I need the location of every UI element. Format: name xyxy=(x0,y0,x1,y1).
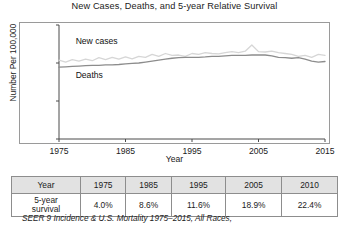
series-label-deaths: Deaths xyxy=(76,70,103,80)
table-col-header-2005: 2005 xyxy=(226,177,282,194)
survival-table: Year19751985199520052010 5-yearsurvival4… xyxy=(11,176,338,217)
table-col-header-1985: 1985 xyxy=(126,177,171,194)
table-header-row: Year19751985199520052010 xyxy=(12,177,338,194)
table-col-header-year: Year xyxy=(12,177,81,194)
table-cell-survival: 18.9% xyxy=(226,194,282,217)
table-cell-survival: 22.4% xyxy=(282,194,338,217)
source-footnote: SEER 9 Incidence & U.S. Mortality 1975–2… xyxy=(22,214,232,223)
table-col-header-2010: 2010 xyxy=(282,177,338,194)
x-axis-label: Year xyxy=(19,154,330,164)
table-col-header-1975: 1975 xyxy=(81,177,126,194)
row-label-line2: survival xyxy=(32,204,60,214)
table-col-header-1995: 1995 xyxy=(171,177,225,194)
series-line-deaths xyxy=(59,55,325,67)
series-label-new-cases: New cases xyxy=(76,36,118,46)
series-line-new-cases xyxy=(59,45,325,62)
